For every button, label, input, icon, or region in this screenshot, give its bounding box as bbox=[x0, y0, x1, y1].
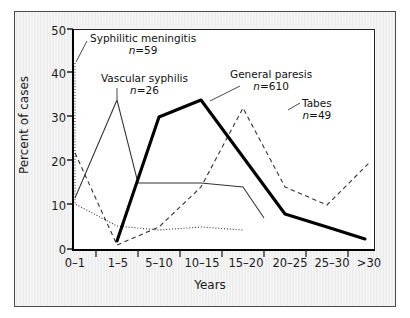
series-general-paresis bbox=[117, 100, 365, 241]
figure-container: 50 40 30 20 10 0 0–1 1–5 5–10 10–15 15–2… bbox=[0, 0, 410, 318]
chart-svg bbox=[0, 0, 410, 318]
axis-ticks bbox=[67, 29, 348, 257]
series-syphilitic-meningitis bbox=[75, 63, 243, 230]
annotation-leader-lines bbox=[76, 41, 300, 110]
series-vascular-syphilis bbox=[75, 100, 264, 218]
